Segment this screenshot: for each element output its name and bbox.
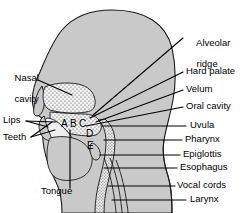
label-teeth: Teeth <box>3 132 26 143</box>
label-esophagus: Esophagus <box>180 162 228 173</box>
label-oral-cavity: Oral cavity <box>186 101 231 112</box>
label-hard-palate: Hard palate <box>186 66 235 77</box>
label-pharynx: Pharynx <box>185 134 220 145</box>
label-nasal-cavity-line2: cavity <box>15 93 39 104</box>
label-lips: Lips <box>3 115 20 126</box>
marker-e: E <box>87 141 94 151</box>
label-larynx: Larynx <box>190 194 219 205</box>
label-velum: Velum <box>186 84 212 95</box>
label-alveolar-ridge-line1: Alveolar <box>196 37 230 48</box>
marker-a: A <box>61 119 68 129</box>
label-tongue: Tongue <box>41 186 72 197</box>
marker-d: D <box>86 129 93 139</box>
vocal-tract-diagram: Nasal cavity Lips Teeth Tongue Alveolar … <box>0 0 242 213</box>
label-nasal-cavity: Nasal cavity <box>4 62 39 115</box>
label-nasal-cavity-line1: Nasal <box>15 72 39 83</box>
marker-b: B <box>70 119 77 129</box>
label-vocal-cords: Vocal cords <box>177 180 226 191</box>
label-epiglottis: Epiglottis <box>183 149 222 160</box>
label-uvula: Uvula <box>190 120 214 131</box>
nasal-cavity-region <box>43 83 95 113</box>
